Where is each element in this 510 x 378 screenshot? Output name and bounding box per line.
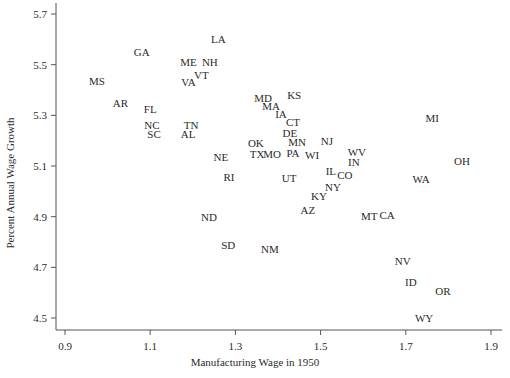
x-tick-label: 0.9 — [58, 340, 72, 352]
point-label-ky: KY — [311, 190, 327, 202]
chart-svg: 4.54.74.95.15.35.55.7 0.91.11.31.51.71.9… — [0, 0, 510, 378]
x-tick-label: 1.7 — [399, 340, 413, 352]
point-label-nv: NV — [395, 255, 411, 267]
point-label-co: CO — [337, 169, 352, 181]
point-label-la: LA — [211, 33, 226, 45]
point-label-va: VA — [181, 76, 196, 88]
x-tick-label: 1.1 — [143, 340, 157, 352]
point-label-in: IN — [348, 156, 360, 168]
x-ticks: 0.91.11.31.51.71.9 — [58, 330, 498, 352]
point-label-ri: RI — [224, 171, 235, 183]
point-label-me: ME — [180, 56, 197, 68]
point-label-mo: MO — [263, 148, 281, 160]
point-label-mt: MT — [361, 210, 378, 222]
point-label-ms: MS — [89, 75, 105, 87]
x-tick-label: 1.9 — [484, 340, 498, 352]
point-label-ne: NE — [214, 151, 229, 163]
point-label-al: AL — [181, 128, 196, 140]
point-label-sd: SD — [221, 239, 235, 251]
point-label-nh: NH — [202, 56, 218, 68]
y-tick-label: 5.5 — [33, 59, 47, 71]
scatter-chart: 4.54.74.95.15.35.55.7 0.91.11.31.51.71.9… — [0, 0, 510, 378]
point-label-fl: FL — [144, 103, 157, 115]
y-tick-label: 4.7 — [33, 261, 47, 273]
point-label-ar: AR — [113, 97, 129, 109]
point-label-az: AZ — [300, 204, 315, 216]
point-label-wa: WA — [413, 173, 430, 185]
point-label-wi: WI — [305, 149, 319, 161]
point-label-ut: UT — [282, 172, 297, 184]
point-label-ks: KS — [287, 89, 301, 101]
y-tick-label: 5.3 — [33, 109, 47, 121]
point-label-ca: CA — [379, 209, 394, 221]
point-label-mi: MI — [425, 112, 439, 124]
point-label-oh: OH — [454, 155, 470, 167]
point-label-or: OR — [435, 285, 451, 297]
y-tick-label: 5.1 — [33, 160, 47, 172]
y-ticks: 4.54.74.95.15.35.55.7 — [33, 8, 56, 324]
x-tick-label: 1.5 — [314, 340, 328, 352]
x-tick-label: 1.3 — [229, 340, 243, 352]
point-label-ga: GA — [134, 46, 150, 58]
y-tick-label: 5.7 — [33, 8, 47, 20]
point-label-wy: WY — [415, 312, 433, 324]
y-tick-label: 4.5 — [33, 312, 47, 324]
point-label-il: IL — [326, 165, 337, 177]
point-label-sc: SC — [147, 128, 160, 140]
point-label-nj: NJ — [321, 135, 334, 147]
y-axis-title: Percent Annual Wage Growth — [4, 117, 16, 249]
y-tick-label: 4.9 — [33, 211, 47, 223]
point-label-pa: PA — [286, 147, 299, 159]
x-axis-title: Manufacturing Wage in 1950 — [191, 356, 320, 368]
point-label-ny: NY — [325, 181, 341, 193]
point-label-vt: VT — [194, 69, 209, 81]
data-point-labels: LAGAMENHVTVAMSARFLNCSCTNALMDKSMAIACTDEOK… — [89, 33, 470, 324]
point-label-id: ID — [405, 276, 417, 288]
point-label-nd: ND — [201, 211, 217, 223]
point-label-nm: NM — [261, 243, 279, 255]
